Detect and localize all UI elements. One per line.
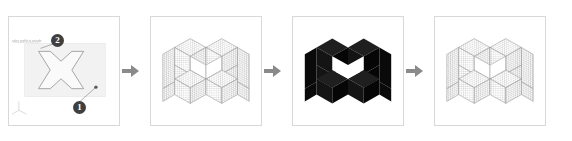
arrow-step-3-to-4 [405, 61, 425, 81]
sketch-canvas [9, 17, 119, 125]
panel-shaded-solid[interactable] [292, 16, 404, 126]
xyz-axis-triad-icon [12, 101, 27, 114]
panel-mesh-preview[interactable] [150, 16, 262, 126]
sketch-hint-label: select profile to extrude [12, 40, 41, 43]
mesh-final-canvas [435, 17, 545, 125]
iso-cross-mesh [163, 38, 249, 103]
mesh-preview-canvas [151, 17, 261, 125]
panel-sketch[interactable]: select profile to extrude 1 2 [8, 16, 120, 126]
callout-badge-1[interactable]: 1 [73, 101, 86, 114]
right-arrow-icon [406, 64, 424, 78]
shaded-solid-canvas [293, 17, 403, 125]
iso-cross-mesh-final [447, 38, 533, 103]
iso-cross-solid [305, 38, 391, 103]
leader-dot-1 [94, 85, 97, 88]
arrow-step-1-to-2 [121, 61, 141, 81]
right-arrow-icon [264, 64, 282, 78]
callout-badge-2[interactable]: 2 [51, 34, 64, 47]
workflow-strip: select profile to extrude 1 2 [0, 0, 572, 141]
panel-mesh-final[interactable] [434, 16, 546, 126]
arrow-step-2-to-3 [263, 61, 283, 81]
right-arrow-icon [122, 64, 140, 78]
